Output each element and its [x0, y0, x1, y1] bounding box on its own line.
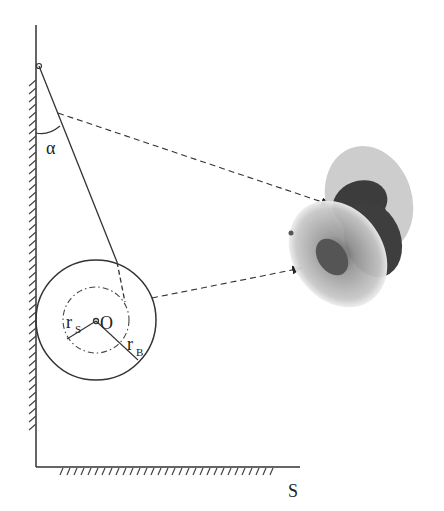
- floor: [36, 467, 300, 475]
- spool-radius-label: r S: [66, 312, 81, 335]
- rope-line: [39, 66, 117, 262]
- axis-label-s: S: [288, 481, 298, 501]
- pendulum-spool-diagram: S α O r S r B: [0, 0, 444, 511]
- vertical-wall: [29, 25, 36, 467]
- spool-image: [268, 134, 426, 326]
- angle-label: α: [46, 138, 56, 158]
- arrow-to-spool-core: [58, 113, 331, 205]
- svg-text:r: r: [66, 312, 72, 332]
- body-radius-label: r B: [127, 334, 143, 358]
- arrow-to-spool-flange: [152, 268, 302, 298]
- center-label: O: [100, 313, 113, 333]
- svg-text:S: S: [75, 323, 81, 335]
- angle-arc: [36, 126, 60, 134]
- svg-text:B: B: [136, 346, 143, 358]
- outer-circle: [36, 260, 156, 380]
- svg-text:r: r: [127, 334, 133, 354]
